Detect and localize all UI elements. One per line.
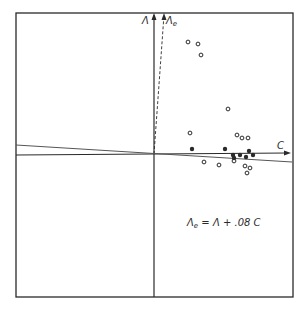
filled-point-marker (190, 147, 194, 151)
open-point-marker (245, 171, 249, 175)
open-point-marker (188, 131, 192, 135)
open-point-marker (196, 42, 200, 46)
open-point-marker (202, 160, 206, 164)
open-point-marker (240, 136, 244, 140)
lambda-arrow-icon (152, 13, 157, 20)
filled-point-marker (223, 147, 227, 151)
open-point-marker (199, 53, 203, 57)
filled-point-marker (232, 156, 236, 160)
open-point-marker (248, 166, 252, 170)
lambda-axis-label: Λ (141, 15, 149, 26)
open-point-marker (246, 136, 250, 140)
open-point-marker (186, 40, 190, 44)
filled-point-marker (251, 153, 255, 157)
filled-point-marker (238, 153, 242, 157)
open-point-marker (217, 163, 221, 167)
open-point-marker (235, 133, 239, 137)
open-point-marker (226, 107, 230, 111)
open-point-marker (243, 164, 247, 168)
lambda-e-axis (154, 15, 164, 154)
filled-point-marker (244, 155, 248, 159)
equation-label: Λe = Λ + .08 C (186, 217, 261, 230)
diagram-canvas: Λ Λe C Λe = Λ + .08 C (0, 0, 305, 310)
c-axis-label: C (277, 140, 284, 151)
c-arrow-icon (284, 151, 291, 156)
lambda-e-axis-label: Λe (165, 15, 177, 28)
filled-point-marker (247, 149, 251, 153)
